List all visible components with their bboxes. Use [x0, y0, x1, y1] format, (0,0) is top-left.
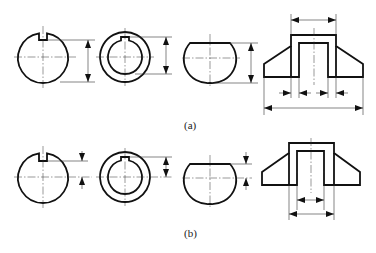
flat-cut-section-b — [182, 152, 252, 208]
u-bracket-a — [264, 14, 363, 115]
keyed-shaft-section-b — [14, 146, 92, 208]
keyed-hub-section-b — [96, 148, 172, 206]
keyed-shaft-section-a — [14, 26, 95, 88]
caption-b: (b) — [184, 227, 197, 239]
u-bracket-b — [262, 138, 360, 220]
panel-a — [14, 14, 363, 115]
flat-cut-section-a — [182, 34, 258, 88]
caption-a: (a) — [184, 119, 196, 131]
keyed-hub-section-a — [96, 28, 172, 86]
panel-b — [14, 138, 360, 220]
